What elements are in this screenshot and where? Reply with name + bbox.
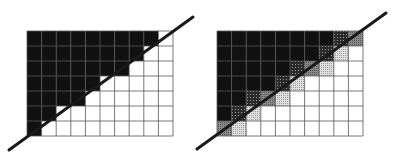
grid-cell bbox=[275, 106, 290, 121]
grid-cell bbox=[217, 76, 232, 91]
grid-cell bbox=[217, 91, 232, 106]
grid-cell bbox=[42, 46, 57, 61]
grid-cell bbox=[348, 46, 363, 61]
grid-cell bbox=[27, 61, 42, 76]
grid-cell bbox=[71, 31, 86, 46]
grid-cell bbox=[232, 46, 247, 61]
grid-cell bbox=[129, 121, 144, 136]
grid-cell bbox=[348, 106, 363, 121]
grid-cell bbox=[246, 76, 261, 91]
grid-cell bbox=[100, 31, 115, 46]
grid-cell bbox=[144, 61, 159, 76]
grid-cell bbox=[334, 91, 349, 106]
grid-cell bbox=[56, 91, 71, 106]
grid-cell bbox=[42, 76, 57, 91]
grid-cell bbox=[144, 76, 159, 91]
aliased-grid-panel bbox=[9, 17, 193, 150]
grid-cell bbox=[42, 91, 57, 106]
grid-cell bbox=[129, 31, 144, 46]
grid-cell bbox=[158, 46, 173, 61]
figure-canvas bbox=[0, 0, 396, 168]
grid-cell bbox=[85, 31, 100, 46]
grid-cell bbox=[115, 121, 130, 136]
grid-cell bbox=[319, 31, 334, 46]
grid-cell bbox=[27, 76, 42, 91]
grid-cell bbox=[27, 91, 42, 106]
grid-cell bbox=[319, 106, 334, 121]
grid-cell bbox=[319, 76, 334, 91]
grid-cell bbox=[334, 61, 349, 76]
grid-cell bbox=[305, 31, 320, 46]
grid-cell bbox=[261, 76, 276, 91]
grid-cell bbox=[158, 61, 173, 76]
grid-cell bbox=[115, 106, 130, 121]
grid-cell bbox=[71, 76, 86, 91]
grid-cell bbox=[319, 91, 334, 106]
grid-cell bbox=[290, 91, 305, 106]
grid-cell bbox=[290, 31, 305, 46]
grid-cell bbox=[71, 61, 86, 76]
grid-cell bbox=[261, 46, 276, 61]
grid-cell bbox=[42, 31, 57, 46]
grid-cell bbox=[56, 61, 71, 76]
grid-cell bbox=[56, 31, 71, 46]
grid-cell bbox=[246, 61, 261, 76]
grid-cell bbox=[305, 91, 320, 106]
rasterization-figure bbox=[0, 0, 396, 168]
grid-cell bbox=[27, 106, 42, 121]
grid-cell bbox=[246, 46, 261, 61]
grid-cell bbox=[275, 46, 290, 61]
grid-cell bbox=[27, 31, 42, 46]
grid-cell bbox=[261, 121, 276, 136]
grid-cell bbox=[115, 76, 130, 91]
grid-cell bbox=[319, 61, 334, 76]
grid-cell bbox=[71, 121, 86, 136]
grid-cell bbox=[290, 46, 305, 61]
grid-cell bbox=[100, 106, 115, 121]
grid-cell bbox=[334, 76, 349, 91]
grid-cell bbox=[348, 61, 363, 76]
grid-cell bbox=[275, 91, 290, 106]
grid-cell bbox=[246, 121, 261, 136]
grid-cell bbox=[129, 91, 144, 106]
grid-cell bbox=[217, 31, 232, 46]
grid-cell bbox=[56, 76, 71, 91]
grid-cell bbox=[115, 91, 130, 106]
grid-cell bbox=[56, 46, 71, 61]
grid-cell bbox=[158, 106, 173, 121]
grid-cell bbox=[305, 121, 320, 136]
grid-cell bbox=[158, 121, 173, 136]
grid-cell bbox=[71, 46, 86, 61]
grid-cell bbox=[275, 121, 290, 136]
grid-cell bbox=[56, 121, 71, 136]
grid-cell bbox=[158, 76, 173, 91]
grid-cell bbox=[85, 106, 100, 121]
grid-cell bbox=[334, 106, 349, 121]
grid-cell bbox=[144, 121, 159, 136]
grid-cell bbox=[290, 121, 305, 136]
grid-cell bbox=[348, 121, 363, 136]
grid-cell bbox=[217, 106, 232, 121]
grid-cell bbox=[275, 31, 290, 46]
grid-cell bbox=[100, 91, 115, 106]
grid-cell bbox=[232, 91, 247, 106]
grid-cell bbox=[232, 61, 247, 76]
grid-cell bbox=[246, 31, 261, 46]
grid-cell bbox=[100, 121, 115, 136]
grid-cell bbox=[115, 46, 130, 61]
grid-cell bbox=[305, 46, 320, 61]
grid-cell bbox=[232, 31, 247, 46]
grid-cell bbox=[319, 121, 334, 136]
grid-cell bbox=[348, 76, 363, 91]
grid-cell bbox=[261, 61, 276, 76]
grid-cell bbox=[290, 106, 305, 121]
grid-cell bbox=[115, 31, 130, 46]
grid-cell bbox=[129, 106, 144, 121]
grid-cell bbox=[100, 46, 115, 61]
grid-cell bbox=[232, 76, 247, 91]
grid-cell bbox=[85, 46, 100, 61]
grid-cell bbox=[27, 46, 42, 61]
grid-cell bbox=[261, 106, 276, 121]
grid-cell bbox=[217, 61, 232, 76]
grid-cell bbox=[217, 46, 232, 61]
